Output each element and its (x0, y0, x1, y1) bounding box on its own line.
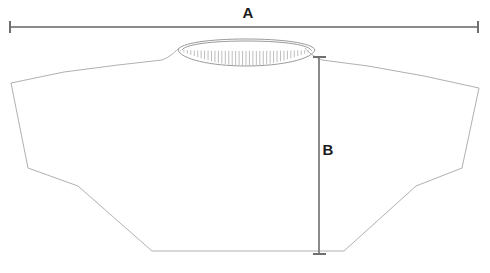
measurement-a: A (10, 4, 478, 33)
measurement-b: B (313, 57, 334, 254)
diagram-canvas: A B (0, 0, 490, 273)
collar-ribbing (177, 50, 315, 66)
garment-group (11, 39, 479, 251)
garment-body-outline (11, 48, 479, 251)
measurement-b-label: B (323, 141, 334, 158)
garment-measurement-diagram: A B (0, 0, 490, 273)
measurement-a-label: A (243, 4, 254, 21)
collar-inner-edge (182, 41, 311, 50)
collar-group (177, 39, 315, 66)
